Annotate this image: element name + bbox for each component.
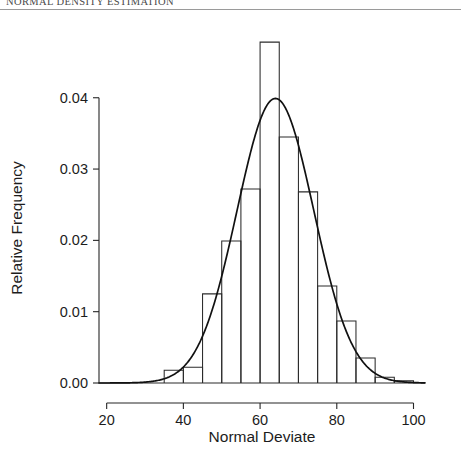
y-axis-ticks: 0.000.010.020.030.04 <box>60 90 99 391</box>
histogram-bar <box>279 137 298 383</box>
figure-page: NORMAL DENSITY ESTIMATION 0.000.010.020.… <box>0 0 461 459</box>
histogram-bar <box>318 286 337 383</box>
x-axis-ticks: 20406080100 <box>99 403 426 428</box>
header-rule <box>0 9 461 10</box>
y-axis-title: Relative Frequency <box>8 161 25 295</box>
running-head: NORMAL DENSITY ESTIMATION <box>6 0 456 7</box>
histogram-bar <box>183 367 202 383</box>
histogram-bar <box>241 189 260 383</box>
x-tick-label: 20 <box>99 412 115 428</box>
y-tick-label: 0.00 <box>60 375 88 391</box>
x-tick-label: 40 <box>175 412 191 428</box>
y-tick-label: 0.04 <box>60 90 88 106</box>
x-tick-label: 60 <box>252 412 268 428</box>
y-tick-label: 0.02 <box>60 232 88 248</box>
x-axis-title: Normal Deviate <box>209 428 316 445</box>
normal-density-curve <box>99 98 425 383</box>
histogram-bar <box>298 192 317 383</box>
y-tick-label: 0.03 <box>60 161 88 177</box>
normal-density-figure: 0.000.010.020.030.04 20406080100 Relativ… <box>0 12 461 459</box>
chart-axes <box>99 98 413 403</box>
histogram-bars <box>99 42 425 383</box>
y-tick-label: 0.01 <box>60 304 88 320</box>
x-tick-label: 80 <box>329 412 345 428</box>
histogram-bar <box>164 370 183 383</box>
x-tick-label: 100 <box>401 412 425 428</box>
histogram-density-chart: 0.000.010.020.030.04 20406080100 Relativ… <box>0 12 461 459</box>
histogram-bar <box>260 42 279 383</box>
